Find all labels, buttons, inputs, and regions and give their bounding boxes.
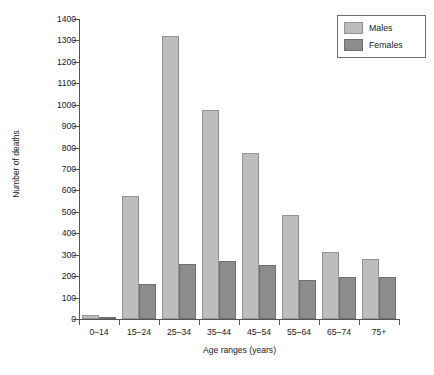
y-tick-label: 600: [62, 186, 76, 195]
bar-females: [339, 277, 356, 319]
x-tick-mark: [199, 320, 200, 325]
plot-area: 0100200300400500600700800900100011001200…: [79, 19, 399, 319]
x-tick-mark: [239, 320, 240, 325]
y-tick-label: 400: [62, 229, 76, 238]
x-tick-mark: [399, 320, 400, 325]
x-axis-title: Age ranges (years): [79, 345, 400, 355]
bar-females: [139, 284, 156, 319]
y-tick-label: 900: [62, 122, 76, 131]
bar-group: [359, 19, 399, 319]
bar-males: [282, 215, 299, 319]
bar-females: [219, 261, 236, 319]
y-tick-label: 300: [62, 250, 76, 259]
y-axis-title: Number of deaths: [7, 14, 25, 314]
y-tick-label: 1000: [57, 100, 76, 109]
bar-males: [322, 252, 339, 320]
x-tick-mark: [79, 320, 80, 325]
x-tick-mark: [119, 320, 120, 325]
legend-swatch-females: [344, 39, 363, 51]
x-tick-mark: [159, 320, 160, 325]
y-axis-title-text: Number of deaths: [11, 130, 21, 198]
bar-group: [279, 19, 319, 319]
legend: Males Females: [337, 15, 426, 58]
bar-females: [259, 265, 276, 319]
bar-males: [362, 259, 379, 319]
y-tick-label: 200: [62, 272, 76, 281]
bar-group: [159, 19, 199, 319]
legend-label-females: Females: [369, 41, 403, 50]
y-tick-label: 700: [62, 165, 76, 174]
y-tick-label: 1400: [57, 15, 76, 24]
y-tick-label: 0: [71, 315, 76, 324]
x-tick-label: 35–44: [207, 328, 231, 337]
legend-label-males: Males: [369, 24, 392, 33]
x-tick-label: 75+: [372, 328, 387, 337]
legend-item-males: Males: [344, 21, 392, 35]
y-tick-label: 500: [62, 208, 76, 217]
bar-females: [379, 277, 396, 319]
bar-females: [99, 317, 116, 319]
bar-males: [202, 110, 219, 319]
x-tick-label: 55–64: [287, 328, 311, 337]
bar-group: [119, 19, 159, 319]
x-tick-label: 45–54: [247, 328, 271, 337]
x-tick-label: 65–74: [327, 328, 351, 337]
bar-group: [199, 19, 239, 319]
x-tick-mark: [319, 320, 320, 325]
bar-group: [319, 19, 359, 319]
y-tick-label: 100: [62, 293, 76, 302]
bar-chart-figure: Number of deaths 01002003004005006007008…: [0, 0, 434, 375]
bar-males: [242, 153, 259, 319]
x-tick-label: 15–24: [127, 328, 151, 337]
bar-males: [162, 36, 179, 319]
bar-females: [299, 280, 316, 319]
y-tick-label: 1100: [58, 79, 76, 88]
y-tick-label: 1200: [57, 58, 76, 67]
legend-swatch-males: [344, 22, 363, 34]
y-tick-label: 800: [62, 143, 76, 152]
bar-females: [179, 264, 196, 319]
y-tick-label: 1300: [57, 36, 76, 45]
bar-males: [82, 315, 99, 319]
legend-item-females: Females: [344, 38, 403, 52]
x-tick-label: 25–34: [167, 328, 191, 337]
bar-group: [79, 19, 119, 319]
bar-males: [122, 196, 139, 319]
x-tick-mark: [359, 320, 360, 325]
bar-group: [239, 19, 279, 319]
x-tick-label: 0–14: [89, 328, 108, 337]
x-tick-mark: [279, 320, 280, 325]
